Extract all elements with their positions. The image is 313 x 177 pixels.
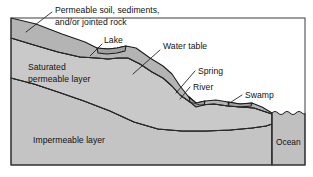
cross-section-svg: Permeable soil, sediments, and/or jointe… bbox=[0, 0, 313, 177]
lake-label: Lake bbox=[104, 35, 123, 45]
saturated-layer-label-line1: Saturated bbox=[28, 62, 66, 72]
water-table-label: Water table bbox=[163, 41, 207, 51]
saturated-layer-label-line2: permeable layer bbox=[28, 74, 90, 84]
swamp-label: Swamp bbox=[245, 90, 274, 100]
impermeable-layer-label: Impermeable layer bbox=[33, 135, 105, 145]
permeable-soil-label-line1: Permeable soil, sediments, bbox=[55, 5, 159, 15]
ocean-label: Ocean bbox=[276, 137, 301, 147]
spring-label: Spring bbox=[198, 66, 223, 76]
river-label: River bbox=[193, 82, 213, 92]
groundwater-diagram-figure: Permeable soil, sediments, and/or jointe… bbox=[0, 0, 313, 177]
